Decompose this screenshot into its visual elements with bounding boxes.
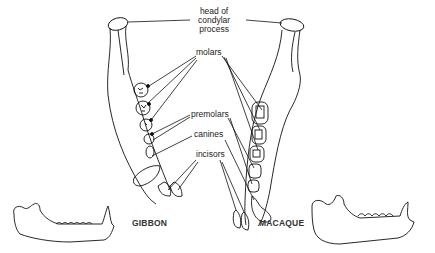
label-incisors: incisors: [196, 150, 225, 159]
gibbon-mandible-side-view: [14, 203, 114, 242]
gibbon-mandible-top-view: [107, 16, 182, 204]
label-premolars: premolars: [191, 110, 229, 119]
macaque-mandible-side-view: [312, 195, 414, 244]
label-line: process: [198, 25, 230, 34]
species-label-macaque: MACAQUE: [259, 218, 304, 228]
macaque-mandible-top-view: [233, 17, 305, 230]
label-condylar-process: head of condylar process: [198, 7, 230, 34]
label-canines: canines: [194, 130, 223, 139]
species-label-gibbon: GIBBON: [132, 218, 167, 228]
label-molars: molars: [196, 48, 222, 57]
jaw-diagram: [0, 0, 435, 253]
